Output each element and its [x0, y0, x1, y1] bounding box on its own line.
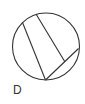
- chord-line: [46, 49, 79, 81]
- option-label: D: [13, 83, 22, 97]
- chord-line: [23, 23, 46, 81]
- chord-line: [36, 14, 65, 62]
